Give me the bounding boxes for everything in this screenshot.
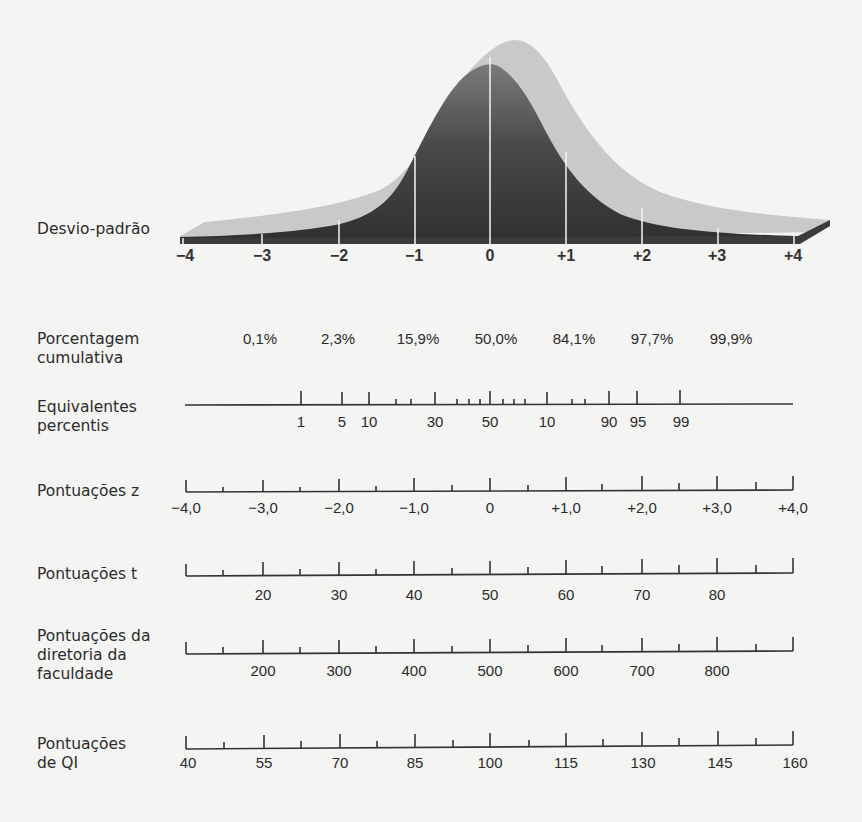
label-line: Pontuações (37, 735, 126, 754)
iq-value: 130 (630, 754, 655, 771)
percentile-value: 10 (539, 413, 556, 430)
cumulative-value: 2,3% (321, 330, 355, 347)
college-value: 600 (553, 662, 578, 679)
iq-value: 100 (477, 754, 502, 771)
label-line: faculdade (37, 665, 150, 684)
percentile-value: 50 (482, 413, 499, 430)
college-board-axis (186, 637, 793, 654)
percentile-value: 1 (297, 413, 305, 430)
iq-row-label: Pontuações de QI (37, 735, 126, 773)
z-value: −3,0 (248, 499, 278, 516)
college-value: 500 (477, 662, 502, 679)
t-row-label: Pontuações t (37, 565, 137, 584)
percentile-value: 30 (427, 413, 444, 430)
iq-value: 40 (180, 754, 197, 771)
z-value: −1,0 (399, 499, 429, 516)
t-value: 80 (709, 586, 726, 603)
t-value: 70 (634, 586, 651, 603)
cumulative-value: 50,0% (475, 330, 518, 347)
percentile-value: 90 (601, 413, 618, 430)
label-line: diretoria da (37, 646, 150, 665)
iq-value: 160 (782, 754, 807, 771)
iq-value: 145 (707, 754, 732, 771)
z-value: −4,0 (171, 499, 201, 516)
iq-value: 115 (554, 754, 578, 771)
sd-tick: +1 (557, 247, 575, 265)
sd-tick: −1 (405, 247, 423, 265)
percentile-row-label: Equivalentes percentis (37, 398, 137, 436)
t-value: 30 (331, 586, 348, 603)
label-line: Pontuações da (37, 627, 150, 646)
t-value: 20 (255, 586, 272, 603)
z-row-label: Pontuações z (37, 482, 139, 501)
normal-distribution-figure: Desvio-padrão Porcentagem cumulativa Equ… (0, 0, 862, 822)
z-value: +4,0 (778, 499, 808, 516)
iq-value: 85 (407, 754, 424, 771)
percentile-value: 5 (338, 413, 346, 430)
percentile-value: 95 (630, 413, 647, 430)
cumulative-value: 97,7% (631, 330, 674, 347)
sd-tick: −3 (253, 247, 271, 265)
sd-tick: +2 (633, 247, 651, 265)
label-line: de QI (37, 754, 126, 773)
college-value: 800 (704, 662, 729, 679)
label-line: Equivalentes (37, 398, 137, 417)
cumulative-value: 0,1% (243, 330, 277, 347)
cumulative-value: 99,9% (710, 330, 753, 347)
label-line: percentis (37, 417, 137, 436)
cumulative-row-label: Porcentagem cumulativa (37, 330, 139, 368)
sd-tick: 0 (486, 247, 495, 265)
cumulative-value: 15,9% (397, 330, 440, 347)
z-value: +2,0 (627, 499, 657, 516)
t-value: 60 (558, 586, 575, 603)
percentile-value: 10 (361, 413, 378, 430)
t-value: 50 (482, 586, 499, 603)
college-value: 200 (250, 662, 275, 679)
college-value: 700 (629, 662, 654, 679)
z-axis (186, 476, 793, 492)
iq-value: 70 (332, 754, 349, 771)
college-value: 400 (401, 662, 426, 679)
sd-tick: +4 (784, 247, 802, 265)
iq-value: 55 (256, 754, 273, 771)
z-value: +3,0 (702, 499, 732, 516)
z-value: 0 (486, 499, 494, 516)
label-line: Porcentagem (37, 330, 139, 349)
z-value: −2,0 (324, 499, 354, 516)
percentile-value: 99 (673, 413, 690, 430)
percentile-axis (185, 390, 793, 405)
sd-row-label: Desvio-padrão (37, 220, 150, 239)
label-line: cumulativa (37, 349, 139, 368)
sd-tick: −4 (176, 247, 194, 265)
sd-tick: +3 (708, 247, 726, 265)
cumulative-value: 84,1% (553, 330, 596, 347)
college-row-label: Pontuações da diretoria da faculdade (37, 627, 150, 684)
college-value: 300 (326, 662, 351, 679)
z-value: +1,0 (551, 499, 581, 516)
sd-tick: −2 (330, 247, 348, 265)
t-axis (186, 558, 793, 576)
t-value: 40 (406, 586, 423, 603)
iq-axis (186, 731, 793, 749)
